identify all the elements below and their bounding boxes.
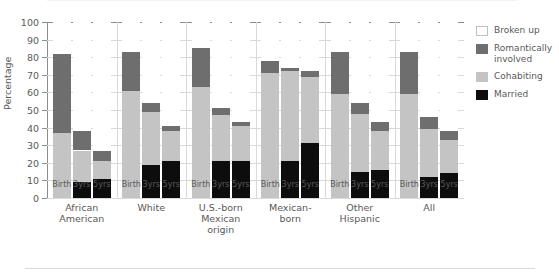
bar[interactable] bbox=[142, 22, 160, 198]
bar-segment-broken bbox=[371, 22, 389, 122]
bar-segment-romantic bbox=[142, 103, 160, 112]
x-tick-label: 3yrs bbox=[212, 180, 229, 189]
bar-segment-romantic bbox=[440, 131, 458, 140]
bar-segment-romantic bbox=[192, 48, 210, 87]
bar-segment-broken bbox=[400, 22, 418, 52]
bar-segment-romantic bbox=[261, 61, 279, 73]
y-tick-label: 50 bbox=[27, 105, 39, 116]
y-tick-label: 70 bbox=[27, 69, 39, 80]
bar-segment-cohab bbox=[232, 126, 250, 161]
group-separator bbox=[256, 22, 257, 198]
bar-segment-married bbox=[301, 143, 319, 198]
y-tick-label: 0 bbox=[33, 193, 39, 204]
bar[interactable] bbox=[162, 22, 180, 198]
x-tick-label: 3yrs bbox=[351, 180, 368, 189]
bar[interactable] bbox=[212, 22, 230, 198]
bar[interactable] bbox=[192, 22, 210, 198]
legend-label: Romantically involved bbox=[494, 43, 552, 64]
bar[interactable] bbox=[331, 22, 349, 198]
y-tick-mark bbox=[42, 128, 47, 129]
bar-segment-romantic bbox=[351, 103, 369, 114]
bar-segment-romantic bbox=[281, 68, 299, 72]
group-separator bbox=[186, 22, 187, 198]
bar-segment-romantic bbox=[53, 54, 71, 133]
top-rule bbox=[47, 0, 517, 1]
bar[interactable] bbox=[122, 22, 140, 198]
bar-segment-broken bbox=[162, 22, 180, 126]
bar-segment-broken bbox=[420, 22, 438, 117]
y-tick-label: 20 bbox=[27, 157, 39, 168]
y-tick-mark bbox=[42, 40, 47, 41]
y-tick-label: 80 bbox=[27, 52, 39, 63]
group-separator bbox=[325, 22, 326, 198]
group-label: Mexican- born bbox=[269, 202, 312, 224]
bar-segment-romantic bbox=[371, 122, 389, 131]
bar-segment-broken bbox=[351, 22, 369, 103]
y-tick-mark bbox=[42, 110, 47, 111]
bar[interactable] bbox=[93, 22, 111, 198]
x-tick-label: 5yrs bbox=[93, 180, 110, 189]
bar[interactable] bbox=[281, 22, 299, 198]
group-label: All bbox=[423, 202, 435, 213]
group-separator bbox=[395, 22, 396, 198]
chart-legend: Broken upRomantically involvedCohabiting… bbox=[476, 25, 556, 107]
bar-segment-broken bbox=[232, 22, 250, 122]
group-label: White bbox=[137, 202, 165, 213]
x-tick-label: Birth bbox=[191, 180, 210, 189]
legend-swatch-broken-icon bbox=[476, 26, 488, 36]
legend-item[interactable]: Broken up bbox=[476, 25, 556, 36]
bar-segment-broken bbox=[301, 22, 319, 71]
legend-item[interactable]: Romantically involved bbox=[476, 43, 556, 64]
bar-segment-romantic bbox=[301, 71, 319, 76]
bar-segment-broken bbox=[122, 22, 140, 52]
bar-segment-romantic bbox=[73, 131, 91, 150]
bar[interactable] bbox=[232, 22, 250, 198]
bar-segment-romantic bbox=[122, 52, 140, 91]
bar-segment-broken bbox=[212, 22, 230, 108]
group-label: Other Hispanic bbox=[340, 202, 380, 224]
x-tick-label: 5yrs bbox=[441, 180, 458, 189]
legend-swatch-married-icon bbox=[476, 90, 488, 100]
y-tick-label: 60 bbox=[27, 87, 39, 98]
legend-swatch-cohab-icon bbox=[476, 72, 488, 82]
y-tick-label: 30 bbox=[27, 140, 39, 151]
bar[interactable] bbox=[400, 22, 418, 198]
bar-segment-romantic bbox=[420, 117, 438, 129]
x-tick-label: 3yrs bbox=[421, 180, 438, 189]
bar[interactable] bbox=[53, 22, 71, 198]
bar-segment-cohab bbox=[142, 112, 160, 165]
group-label: U.S.-born Mexican origin bbox=[199, 202, 243, 235]
bar-segment-romantic bbox=[400, 52, 418, 94]
y-tick-mark bbox=[42, 22, 47, 23]
x-tick-label: 5yrs bbox=[163, 180, 180, 189]
x-tick-label: Birth bbox=[400, 180, 419, 189]
bar[interactable] bbox=[261, 22, 279, 198]
bar[interactable] bbox=[301, 22, 319, 198]
gridline bbox=[47, 198, 464, 199]
bar-segment-romantic bbox=[212, 108, 230, 115]
bar[interactable] bbox=[440, 22, 458, 198]
legend-label: Married bbox=[494, 89, 528, 100]
bar-segment-cohab bbox=[93, 161, 111, 179]
bar[interactable] bbox=[420, 22, 438, 198]
legend-label: Cohabiting bbox=[494, 71, 543, 82]
bar-segment-romantic bbox=[162, 126, 180, 131]
y-tick-label: 40 bbox=[27, 122, 39, 133]
bar-segment-broken bbox=[192, 22, 210, 48]
bar-segment-cohab bbox=[212, 115, 230, 161]
bar[interactable] bbox=[371, 22, 389, 198]
bar[interactable] bbox=[73, 22, 91, 198]
legend-item[interactable]: Married bbox=[476, 89, 556, 100]
bar-segment-broken bbox=[73, 22, 91, 131]
x-tick-label: 3yrs bbox=[282, 180, 299, 189]
legend-item[interactable]: Cohabiting bbox=[476, 71, 556, 82]
stacked-bar-chart-figure: Percentage 0102030405060708090100 Broken… bbox=[0, 0, 559, 277]
bar-segment-cohab bbox=[301, 77, 319, 144]
y-tick-mark bbox=[42, 75, 47, 76]
plot-area: 0102030405060708090100 bbox=[47, 22, 464, 198]
bar[interactable] bbox=[351, 22, 369, 198]
bar-segment-broken bbox=[331, 22, 349, 52]
bar-segment-cohab bbox=[371, 131, 389, 170]
legend-swatch-romantic-icon bbox=[476, 44, 488, 54]
group-separator bbox=[117, 22, 118, 198]
